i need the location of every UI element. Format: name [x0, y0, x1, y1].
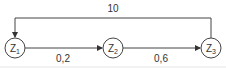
node-z2: Z2 [103, 38, 123, 58]
edge-label-z2-z3: 0,6 [154, 53, 168, 64]
node-subscript: 1 [16, 48, 20, 55]
edge-z1-z2: 0,2 [25, 48, 102, 64]
edge-label-z3-z1: 10 [107, 3, 119, 14]
edge-label-z1-z2: 0,2 [56, 53, 70, 64]
node-z3: Z3 [201, 38, 221, 58]
flow-diagram: 10 0,2 0,6 Z1 Z2 Z3 [0, 0, 226, 73]
node-z1: Z1 [5, 38, 25, 58]
edge-z3-z1: 10 [15, 3, 211, 38]
edge-z2-z3: 0,6 [123, 48, 200, 64]
node-subscript: 3 [212, 48, 216, 55]
node-subscript: 2 [114, 48, 118, 55]
